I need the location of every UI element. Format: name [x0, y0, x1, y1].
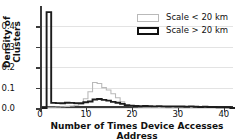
- y-tick-label-3: 0.3: [0, 43, 15, 52]
- y-tick-label-4: 0.4: [0, 22, 15, 31]
- y-tick-label-0: 0.0: [0, 104, 15, 113]
- x-tick-mark-0: [40, 108, 42, 112]
- y-tick-label-1: 0.1: [0, 84, 15, 93]
- x-tick-mark-3: [178, 108, 180, 112]
- legend-label-scale-gt-20km: Scale > 20 km: [166, 26, 228, 35]
- legend-swatch-light: [137, 14, 159, 22]
- legend-item-scale-lt-20km: Scale < 20 km: [137, 12, 245, 23]
- chart-legend: Scale < 20 km Scale > 20 km: [137, 12, 245, 38]
- legend-item-scale-gt-20km: Scale > 20 km: [137, 25, 245, 36]
- series-path-scale-lt-20km: [42, 83, 235, 109]
- chart-figure: Density of Clusters 0.00.10.20.30.4 0102…: [0, 0, 252, 140]
- y-tick-label-2: 0.2: [0, 63, 15, 72]
- x-tick-mark-4: [224, 108, 226, 112]
- x-tick-mark-2: [132, 108, 134, 112]
- legend-label-scale-lt-20km: Scale < 20 km: [166, 13, 228, 22]
- legend-swatch-dark: [137, 27, 159, 35]
- x-tick-mark-1: [86, 108, 88, 112]
- x-axis-title: Number of Times Device Accesses Address: [32, 121, 242, 140]
